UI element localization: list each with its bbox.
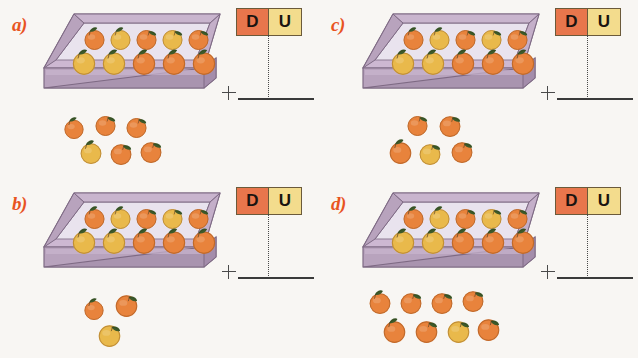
crate-orange bbox=[160, 227, 188, 255]
crate-orange bbox=[100, 227, 128, 255]
loose-orange bbox=[96, 321, 123, 348]
crate-orange bbox=[389, 227, 417, 255]
loose-oranges-group-d bbox=[367, 287, 507, 349]
crate-orange bbox=[130, 227, 158, 255]
exercise-panel-a: a) bbox=[0, 0, 319, 179]
place-value-math-c: D U bbox=[541, 8, 635, 118]
loose-orange bbox=[62, 116, 86, 140]
plus-operator-icon bbox=[541, 86, 555, 100]
answer-line-d[interactable] bbox=[557, 277, 633, 279]
column-divider-line bbox=[587, 214, 588, 276]
plus-operator-icon bbox=[222, 265, 236, 279]
worksheet-page: a) bbox=[0, 0, 638, 358]
crate-orange bbox=[70, 227, 98, 255]
du-header-units: U bbox=[269, 9, 301, 35]
crate-orange bbox=[509, 48, 537, 76]
loose-orange bbox=[381, 317, 408, 344]
loose-orange bbox=[417, 140, 443, 166]
loose-orange bbox=[108, 140, 134, 166]
loose-orange bbox=[78, 139, 104, 165]
panel-label-b: b) bbox=[12, 193, 27, 215]
du-header-tens: D bbox=[237, 9, 269, 35]
loose-orange bbox=[138, 138, 164, 164]
loose-orange bbox=[445, 317, 472, 344]
loose-orange bbox=[93, 112, 118, 137]
crate-orange bbox=[70, 48, 98, 76]
loose-orange bbox=[124, 114, 149, 139]
answer-line-a[interactable] bbox=[238, 98, 314, 100]
loose-orange bbox=[398, 289, 424, 315]
crate-orange bbox=[509, 227, 537, 255]
loose-orange bbox=[82, 297, 106, 321]
panel-label-d: d) bbox=[331, 193, 346, 215]
loose-orange bbox=[429, 289, 455, 315]
loose-orange bbox=[387, 138, 414, 165]
crate-orange bbox=[130, 48, 158, 76]
place-value-math-d: D U bbox=[541, 187, 635, 297]
crate-box-icon bbox=[38, 189, 224, 289]
loose-oranges-group-b bbox=[82, 291, 162, 349]
du-header-units: U bbox=[588, 188, 620, 214]
crate-box-icon bbox=[357, 10, 543, 110]
crate-orange bbox=[449, 227, 477, 255]
crate-orange bbox=[190, 227, 218, 255]
loose-orange bbox=[437, 112, 463, 138]
crate-box-icon bbox=[38, 10, 224, 110]
column-divider-line bbox=[268, 214, 269, 276]
crate-orange bbox=[190, 48, 218, 76]
loose-orange bbox=[413, 317, 440, 344]
crate-box-icon bbox=[357, 189, 543, 289]
du-header-units: U bbox=[588, 9, 620, 35]
plus-operator-icon bbox=[541, 265, 555, 279]
crate-orange bbox=[479, 227, 507, 255]
crate-orange bbox=[419, 48, 447, 76]
column-divider-line bbox=[587, 35, 588, 97]
exercise-panel-b: b) bbox=[0, 179, 319, 358]
answer-line-c[interactable] bbox=[557, 98, 633, 100]
exercise-panel-c: c) bbox=[319, 0, 638, 179]
crate-orange bbox=[449, 48, 477, 76]
crate-orange bbox=[160, 48, 188, 76]
exercise-panel-d: d) bbox=[319, 179, 638, 358]
du-header-tens: D bbox=[556, 188, 588, 214]
crate-orange bbox=[389, 48, 417, 76]
du-header-tens: D bbox=[237, 188, 269, 214]
loose-orange bbox=[113, 291, 140, 318]
panel-label-a: a) bbox=[12, 14, 27, 36]
du-table-d: D U bbox=[555, 187, 621, 215]
du-header-units: U bbox=[269, 188, 301, 214]
column-divider-line bbox=[268, 35, 269, 97]
loose-orange bbox=[460, 287, 486, 313]
crate-orange bbox=[479, 48, 507, 76]
loose-orange bbox=[475, 315, 502, 342]
loose-orange bbox=[367, 289, 393, 315]
loose-orange bbox=[405, 112, 430, 137]
loose-oranges-group-c bbox=[387, 112, 491, 168]
crate-orange bbox=[419, 227, 447, 255]
du-table-b: D U bbox=[236, 187, 302, 215]
du-header-tens: D bbox=[556, 9, 588, 35]
plus-operator-icon bbox=[222, 86, 236, 100]
du-table-a: D U bbox=[236, 8, 302, 36]
place-value-math-b: D U bbox=[222, 187, 316, 297]
panel-label-c: c) bbox=[331, 14, 345, 36]
loose-oranges-group-a bbox=[62, 112, 172, 168]
answer-line-b[interactable] bbox=[238, 277, 314, 279]
place-value-math-a: D U bbox=[222, 8, 316, 118]
crate-orange bbox=[100, 48, 128, 76]
loose-orange bbox=[449, 138, 475, 164]
du-table-c: D U bbox=[555, 8, 621, 36]
